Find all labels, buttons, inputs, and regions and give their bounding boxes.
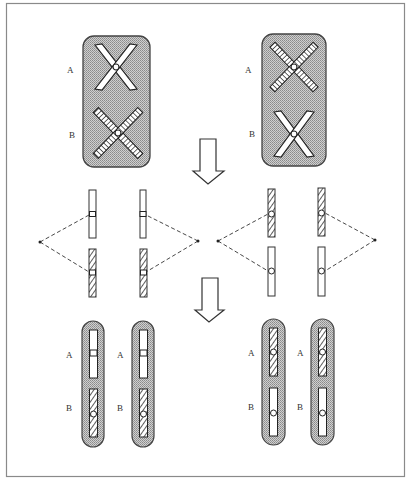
centromere bbox=[90, 270, 96, 275]
bottom-right-chromosome-1: A B bbox=[248, 319, 285, 445]
spindle-pole bbox=[39, 241, 42, 244]
spindle-pole bbox=[217, 240, 220, 243]
spindle-fiber bbox=[218, 214, 268, 241]
down-arrow-icon bbox=[193, 139, 224, 184]
locus-label-b: B bbox=[249, 129, 255, 139]
centromere bbox=[271, 410, 277, 416]
spindle-fiber bbox=[325, 240, 375, 271]
locus-label-b: B bbox=[69, 130, 75, 140]
locus-label-a: A bbox=[66, 350, 73, 360]
middle-right-anaphase bbox=[217, 188, 377, 296]
bivalent-envelope bbox=[262, 34, 326, 166]
bivalent-envelope bbox=[83, 36, 150, 167]
spindle-fiber bbox=[40, 242, 89, 272]
locus-label-a: A bbox=[117, 350, 124, 360]
bottom-left-chromosome-2: A B bbox=[117, 321, 154, 447]
bottom-left-chromosome-1: A B bbox=[66, 321, 104, 447]
locus-label-b: B bbox=[297, 402, 303, 412]
centromere bbox=[141, 270, 147, 275]
top-right-bivalent: A B bbox=[245, 34, 326, 166]
down-arrow-icon bbox=[195, 278, 224, 322]
spindle-fiber bbox=[146, 241, 198, 272]
spindle-fiber bbox=[40, 215, 89, 242]
top-left-bivalent: A B bbox=[67, 36, 150, 167]
locus-label-b: B bbox=[248, 402, 254, 412]
spindle-fiber bbox=[218, 241, 268, 271]
spindle-pole bbox=[197, 240, 200, 243]
centromere bbox=[269, 211, 275, 217]
bottom-right-chromosome-2: A B bbox=[297, 319, 334, 445]
locus-label-a: A bbox=[248, 348, 255, 358]
spindle-fiber bbox=[146, 215, 198, 241]
centromere bbox=[141, 411, 147, 417]
centromere bbox=[90, 350, 97, 356]
centromere bbox=[91, 411, 97, 417]
centromere bbox=[320, 410, 326, 416]
locus-label-b: B bbox=[117, 403, 123, 413]
locus-label-a: A bbox=[67, 65, 74, 75]
centromere bbox=[269, 268, 275, 274]
middle-left-anaphase bbox=[39, 190, 200, 297]
centromere bbox=[140, 212, 146, 217]
centromere bbox=[90, 212, 96, 217]
spindle-pole bbox=[374, 239, 377, 242]
centromere bbox=[319, 210, 325, 216]
centromere bbox=[140, 350, 147, 356]
locus-label-b: B bbox=[66, 403, 72, 413]
recombination-diagram: A B A B bbox=[0, 0, 410, 481]
locus-label-a: A bbox=[297, 348, 304, 358]
locus-label-a: A bbox=[245, 65, 252, 75]
centromere bbox=[319, 268, 325, 274]
centromere bbox=[271, 349, 277, 355]
centromere bbox=[320, 349, 326, 355]
spindle-fiber bbox=[325, 213, 375, 240]
